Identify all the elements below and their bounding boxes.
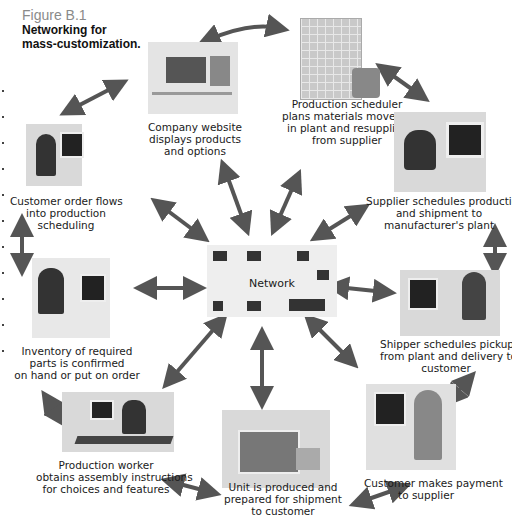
arrow-order-website [70,85,118,110]
arrow-unit-worker [172,482,210,492]
caption-line: Inventory of required [12,345,142,357]
caption-line: displays products [148,133,242,145]
arrow-network-scheduler [276,180,296,225]
person-at-computer-icon [400,270,500,336]
caption-line: in plant and resupplies [282,122,412,134]
arrow-network-order [160,205,200,235]
caption-line: manufacturer's plant [366,219,512,231]
delivery-truck-icon [222,410,330,488]
person-at-computer-icon [366,384,456,470]
caption-line: Production scheduler [282,98,412,110]
person-at-computer-icon [394,112,486,192]
caption-line: Production worker [36,459,176,471]
caption-line: Company website [148,121,242,133]
caption-line: into production [10,207,122,219]
caption-line: from plant and delivery to [380,350,512,362]
arrow-network-supplier [320,210,360,235]
caption-line: obtains assembly instructions [36,471,176,483]
caption-line: Shipper schedules pickup [380,338,512,350]
caption-line: to customer [218,505,348,517]
caption-line: and shipment to [366,207,512,219]
caption-line: from supplier [282,134,412,146]
caption-line: on hand or put on order [12,369,142,381]
caption-line: and options [148,145,242,157]
caption-line: Supplier schedules production [366,195,512,207]
arrow-network-shipper [337,287,385,292]
arrow-website-scheduler [208,27,278,41]
caption-line: for choices and features [36,483,176,495]
caption-line: to supplier [364,489,488,501]
arrow-network-customer [312,322,350,360]
caption-line: Unit is produced and [218,481,348,493]
person-at-computer-icon [32,258,110,338]
arrow-worker-inventory [48,400,60,418]
caption-line: prepared for shipment [218,493,348,505]
caption-line: parts is confirmed [12,357,142,369]
arrow-scheduler-supplier [385,70,420,95]
network-label: Network [244,278,300,290]
arrow-network-website [225,170,245,225]
arrow-network-worker [170,322,220,380]
caption-line: plans materials movements [282,110,412,122]
forklift-icon [352,68,380,98]
caption-line: Customer order flows [10,195,122,207]
caption-line: Customer makes payment [364,477,488,489]
person-at-computer-icon [26,124,82,186]
assembly-line-icon [62,392,174,452]
website-screen-icon [148,42,238,114]
caption-line: customer [380,362,512,374]
caption-line: scheduling [10,219,122,231]
